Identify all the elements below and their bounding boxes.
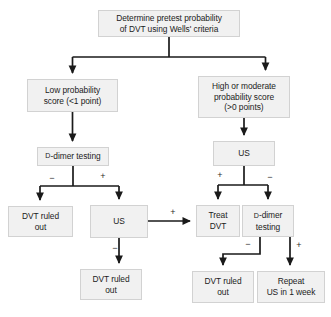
node-high-moderate-probability: High or moderate probability score (>0 p… xyxy=(198,76,290,118)
edge-label-us-middle-negative: − xyxy=(110,244,120,253)
node-treat-dvt: Treat DVT xyxy=(196,205,240,237)
node-us-middle: US xyxy=(90,205,148,238)
dvt-flowchart: Determine pretest probability of DVT usi… xyxy=(0,0,331,317)
node-dvt-ruled-out-1: DVT ruled out xyxy=(8,206,73,237)
node-low-probability: Low probability score (<1 point) xyxy=(27,79,118,112)
node-dvt-ruled-out-3: DVT ruled out xyxy=(192,271,254,303)
ddimer-label-left: -dimer testing xyxy=(51,151,101,162)
edge-label-us-middle-to-treat-positive: + xyxy=(168,208,178,217)
node-dvt-ruled-out-2: DVT ruled out xyxy=(80,269,142,300)
node-ddimer-testing-left: D-dimer testing xyxy=(37,147,109,166)
edge-label-us-right-positive: + xyxy=(215,171,225,180)
ddimer-label-right: -dimer testing xyxy=(256,210,283,232)
node-ddimer-testing-right: D-dimer testing xyxy=(242,205,294,237)
edge-label-ddimer-right-positive: + xyxy=(294,241,304,250)
node-pretest-probability: Determine pretest probability of DVT usi… xyxy=(98,10,240,37)
edge-ddimer-right-neg-to-ruledout xyxy=(223,237,260,265)
edge-label-ddimer-left-negative: − xyxy=(47,174,57,183)
edge-label-ddimer-right-negative: − xyxy=(243,240,253,249)
edge-label-us-right-negative: − xyxy=(265,173,275,182)
edge-label-ddimer-left-positive: + xyxy=(98,172,108,181)
node-repeat-us-1-week: Repeat US in 1 week xyxy=(257,271,325,303)
node-us-right: US xyxy=(213,141,275,166)
